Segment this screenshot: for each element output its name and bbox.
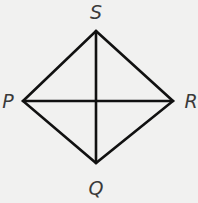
vertex-label-q: Q <box>89 177 104 199</box>
vertex-label-s: S <box>90 1 102 23</box>
vertex-label-r: R <box>184 90 197 112</box>
diagram-canvas: S P R Q <box>0 0 198 203</box>
rhombus-outline <box>23 31 173 163</box>
vertex-label-p: P <box>2 90 14 112</box>
rhombus-diagram: S P R Q <box>0 0 198 203</box>
